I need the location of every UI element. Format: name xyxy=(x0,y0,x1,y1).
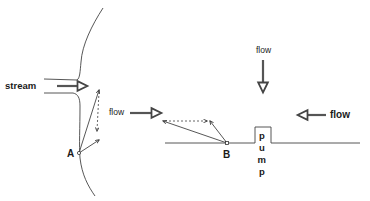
pump-letter-m: m xyxy=(258,154,266,165)
vector-b-to-left xyxy=(163,121,227,143)
vector-dashed-vertical xyxy=(97,92,99,131)
point-b-marker xyxy=(226,142,229,145)
stream-label: stream xyxy=(5,80,36,91)
vector-a-to-top xyxy=(79,90,99,153)
pump-letter-p2: p xyxy=(259,166,265,177)
pump-letter-u: u xyxy=(259,142,265,153)
point-b-label: B xyxy=(223,149,230,160)
point-a-label: A xyxy=(67,148,74,159)
right-panel: flow B p u m p flow flow xyxy=(109,45,360,177)
left-panel: stream A xyxy=(5,8,103,196)
vector-a-to-bottom xyxy=(79,140,99,153)
flow-top-label: flow xyxy=(256,45,272,55)
flow-right-label: flow xyxy=(330,109,350,120)
flow-left-label: flow xyxy=(109,107,125,117)
diagram-canvas: stream A flow B p u m p flow flow xyxy=(0,0,370,201)
upper-bank xyxy=(44,8,103,80)
point-a-marker xyxy=(77,151,80,154)
lower-bank xyxy=(44,93,95,196)
pump-letter-p1: p xyxy=(259,130,265,141)
